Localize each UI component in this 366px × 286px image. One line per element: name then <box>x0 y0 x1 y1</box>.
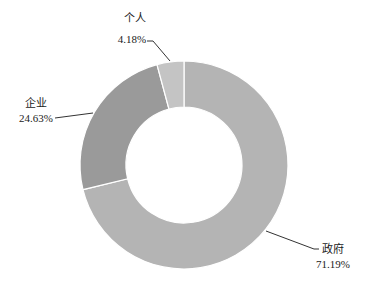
donut-chart: 个人 4.18% 企业 24.63% 政府 71.19% <box>0 0 366 286</box>
label-government-name: 政府 <box>322 242 344 255</box>
leader-line-government <box>266 231 319 249</box>
leader-line-individual <box>147 41 170 61</box>
label-enterprise-name: 企业 <box>25 96 47 109</box>
label-individual-name: 个人 <box>124 12 146 24</box>
label-enterprise-value: 24.63% <box>19 112 53 124</box>
donut-slices <box>80 61 288 269</box>
label-individual-value: 4.18% <box>118 33 146 45</box>
slice-enterprise <box>80 65 169 190</box>
label-government-value: 71.19% <box>316 258 350 270</box>
leader-line-enterprise <box>55 113 93 118</box>
